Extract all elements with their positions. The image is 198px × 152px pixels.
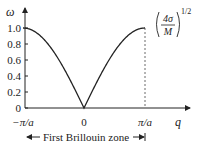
dispersion-curve: [23, 28, 145, 108]
y-tick-label: 0.2: [7, 86, 21, 98]
y-tick-label: 0.4: [7, 70, 21, 82]
x-tick-label: 0: [81, 116, 87, 128]
right-paren: [177, 12, 180, 37]
y-tick-label: 0.6: [7, 54, 21, 66]
y-axis-label: ω: [6, 5, 14, 19]
zone-label: First Brillouin zone: [43, 131, 129, 143]
brillouin-zone-indicator: First Brillouin zone: [27, 131, 145, 143]
x-axis-label: q: [175, 115, 181, 129]
x-tick-label: π/a: [138, 116, 153, 128]
y-tick-label: 0.8: [7, 38, 21, 50]
y-tick-label: 0: [16, 102, 22, 114]
left-paren: [157, 12, 160, 37]
annotation-numerator: 4σ: [163, 13, 174, 24]
x-tick-label: −π/a: [12, 116, 34, 128]
y-tick-label: 1.0: [7, 22, 21, 34]
annotation-denominator: M: [163, 26, 173, 37]
x-ticks: −π/a0π/a: [12, 116, 152, 128]
annotation-exponent: 1/2: [181, 7, 191, 16]
chart: ω q 00.20.40.60.81.0 −π/a0π/a 4σ M 1/2 F…: [0, 0, 198, 152]
max-frequency-annotation: 4σ M 1/2: [157, 7, 192, 37]
